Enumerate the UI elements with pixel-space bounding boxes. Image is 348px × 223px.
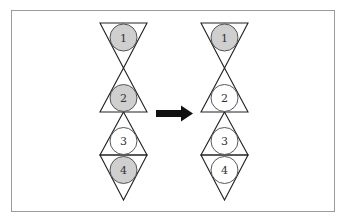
circle-label-2: 2 — [221, 92, 228, 105]
diagram-canvas: 1 2 3 4 1 2 3 4 — [0, 0, 348, 223]
transform-arrow-icon — [156, 106, 193, 122]
right-figure: 1 2 3 4 — [201, 23, 248, 200]
circle-label-4: 4 — [221, 164, 228, 177]
circle-label-3: 3 — [221, 135, 228, 148]
circle-label-3: 3 — [120, 135, 127, 148]
left-figure: 1 2 3 4 — [100, 23, 147, 200]
circle-label-1: 1 — [120, 32, 127, 45]
circle-label-4: 4 — [120, 164, 127, 177]
circle-label-1: 1 — [221, 32, 228, 45]
circle-label-2: 2 — [120, 92, 127, 105]
